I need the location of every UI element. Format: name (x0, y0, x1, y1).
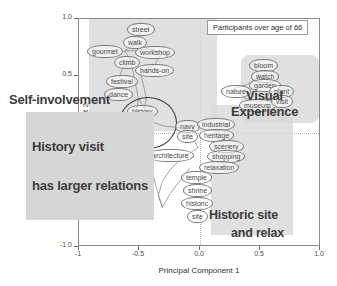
data-point-workshop: workshop (135, 46, 175, 59)
tick-mark-y-0 (74, 18, 78, 19)
tick-label-x-0: -1 (63, 250, 93, 257)
pca-biplot-figure: street walk gourmet workshop climb hands… (0, 0, 337, 286)
tick-label-y-0: 1.0 (50, 13, 72, 20)
data-point-street: street (127, 23, 155, 36)
annotation-historic-site: Historic site (206, 208, 281, 223)
tick-label-x-2: 0.0 (184, 250, 214, 257)
data-point-site-historic: site (187, 210, 208, 223)
data-point-shrine: shrine (183, 184, 212, 197)
annotation-history-visit-line1: History visit (32, 140, 148, 153)
annotation-and-relax: and relax (228, 226, 287, 241)
annotation-history-visit-line2: has larger relations (32, 179, 148, 192)
data-point-gourmet: gourmet (87, 45, 123, 58)
tick-mark-y-3 (74, 246, 78, 247)
data-point-hands-on: hands-on (135, 64, 174, 77)
data-point-festival: festival (106, 75, 138, 88)
participants-note: Participants over age of 66 (207, 20, 308, 35)
x-axis-title: Principal Component 1 (78, 266, 320, 275)
data-point-architecture: architecture (147, 149, 194, 162)
data-point-site-navy: site (177, 130, 198, 143)
annotation-experience: Experience (228, 104, 301, 119)
tick-label-y-1: 0.5 (50, 70, 72, 77)
tick-label-y-3: -1.0 (50, 241, 72, 248)
tick-label-x-3: 0.5 (244, 250, 274, 257)
data-point-temple: temple (181, 171, 212, 184)
annotation-history-visit: History visit has larger relations (26, 112, 154, 220)
annotation-visual: Visual (243, 88, 286, 103)
tick-mark-y-1 (74, 75, 78, 76)
tick-label-x-1: -0.5 (123, 250, 153, 257)
tick-label-x-4: 1.0 (304, 250, 334, 257)
annotation-self-involvement: Self-involvement (6, 92, 113, 107)
